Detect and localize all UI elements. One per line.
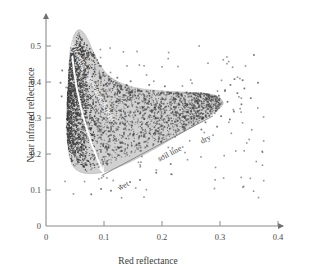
- scatter-point: [93, 156, 94, 157]
- scatter-point: [70, 118, 71, 119]
- scatter-point: [128, 87, 130, 89]
- scatter-point: [129, 133, 131, 135]
- scatter-point: [85, 155, 86, 156]
- scatter-point: [200, 94, 202, 96]
- scatter-point: [69, 92, 70, 93]
- scatter-point: [85, 106, 86, 107]
- scatter-point: [79, 36, 81, 38]
- scatter-point: [175, 130, 176, 131]
- scatter-point: [167, 58, 169, 60]
- scatter-point: [67, 138, 68, 139]
- scatter-point: [153, 137, 154, 138]
- scatter-point: [126, 100, 128, 102]
- scatter-point: [78, 130, 79, 131]
- scatter-point: [159, 105, 160, 106]
- scatter-point: [72, 106, 73, 107]
- scatter-point: [73, 116, 74, 117]
- scatter-point: [76, 158, 77, 159]
- scatter-point: [83, 99, 84, 100]
- scatter-point: [198, 112, 199, 113]
- scatter-point: [75, 152, 76, 153]
- scatter-point: [81, 77, 82, 78]
- scatter-point: [157, 112, 158, 113]
- scatter-point: [184, 92, 185, 93]
- scatter-point: [151, 97, 153, 99]
- scatter-point: [119, 92, 120, 93]
- scatter-point: [110, 128, 112, 130]
- scatter-point: [109, 159, 110, 160]
- scatter-point: [71, 119, 72, 120]
- scatter-point: [77, 141, 78, 142]
- scatter-point: [87, 116, 88, 117]
- scatter-point: [150, 90, 151, 91]
- scatter-point: [171, 120, 173, 122]
- scatter-point: [101, 177, 103, 179]
- scatter-point: [199, 120, 200, 121]
- scatter-point: [161, 141, 163, 143]
- scatter-point: [124, 148, 126, 150]
- scatter-point: [89, 127, 91, 129]
- scatter-point: [134, 152, 135, 153]
- scatter-point: [71, 98, 72, 99]
- scatter-point: [77, 69, 78, 70]
- scatter-point: [155, 133, 156, 134]
- scatter-point: [145, 123, 147, 125]
- scatter-point: [115, 92, 116, 93]
- scatter-point: [70, 122, 71, 123]
- scatter-point: [183, 116, 185, 118]
- scatter-point: [129, 111, 131, 113]
- scatter-point: [85, 86, 86, 87]
- scatter-point: [74, 87, 75, 88]
- scatter-point: [197, 108, 198, 109]
- scatter-point: [76, 69, 77, 70]
- scatter-point: [71, 72, 72, 73]
- scatter-point: [185, 103, 187, 105]
- scatter-point: [72, 113, 73, 114]
- scatter-point: [75, 146, 76, 147]
- scatter-point: [257, 82, 259, 84]
- scatter-point: [84, 99, 85, 100]
- scatter-point: [94, 122, 95, 123]
- scatter-point: [140, 166, 142, 168]
- scatter-point: [91, 117, 93, 119]
- scatter-point: [89, 116, 90, 117]
- scatter-point: [202, 118, 203, 119]
- scatter-point: [108, 155, 110, 157]
- scatter-point: [105, 89, 106, 90]
- scatter-point: [156, 121, 158, 123]
- scatter-point: [101, 125, 102, 126]
- scatter-point: [73, 109, 74, 110]
- scatter-point: [192, 97, 193, 98]
- scatter-point: [218, 102, 219, 103]
- scatter-point: [192, 93, 193, 94]
- scatter-point: [84, 163, 85, 164]
- scatter-point: [106, 122, 107, 123]
- scatter-point: [83, 148, 84, 149]
- scatter-point: [177, 66, 179, 68]
- scatter-point: [133, 116, 135, 118]
- scatter-point: [85, 162, 86, 163]
- scatter-point: [144, 95, 146, 97]
- scatter-point: [173, 101, 174, 102]
- scatter-point: [75, 133, 76, 134]
- scatter-point: [256, 161, 258, 163]
- scatter-point: [208, 97, 209, 98]
- scatter-point: [77, 114, 78, 115]
- x-tick-label: 0.2: [157, 232, 168, 242]
- scatter-point: [105, 120, 106, 121]
- scatter-point: [108, 76, 110, 78]
- scatter-point: [73, 164, 74, 165]
- scatter-point: [172, 109, 173, 110]
- scatter-point: [143, 196, 145, 198]
- scatter-point: [242, 79, 244, 81]
- scatter-point: [84, 181, 86, 183]
- scatter-point: [71, 74, 72, 75]
- scatter-point: [124, 150, 126, 152]
- scatter-point: [75, 67, 76, 68]
- scatter-point: [184, 103, 186, 105]
- scatter-point: [243, 150, 245, 152]
- scatter-point: [163, 130, 164, 131]
- scatter-point: [100, 122, 102, 124]
- scatter-point: [144, 103, 145, 104]
- scatter-point: [189, 140, 191, 142]
